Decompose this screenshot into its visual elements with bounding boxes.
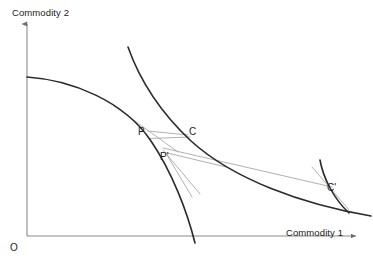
point-label-P: P — [138, 127, 145, 137]
price-line-tangent-P-prime-mid — [165, 153, 226, 168]
point-label-P-prime: P' — [160, 152, 169, 162]
y-axis-label: Commodity 2 — [12, 8, 69, 18]
x-axis-label: Commodity 1 — [286, 228, 343, 238]
origin-label: O — [10, 243, 18, 253]
price-lines-group — [114, 106, 349, 210]
curves-group — [27, 47, 371, 243]
point-label-C: C — [189, 127, 196, 137]
commodity-trade-diagram: Commodity 2 Commodity 1 O P C P' C' — [0, 0, 373, 272]
trade-line-P-to-C-lower — [150, 137, 190, 139]
point-label-C-prime: C' — [327, 183, 336, 193]
price-line-tangent-P-prime-upper — [163, 148, 332, 187]
